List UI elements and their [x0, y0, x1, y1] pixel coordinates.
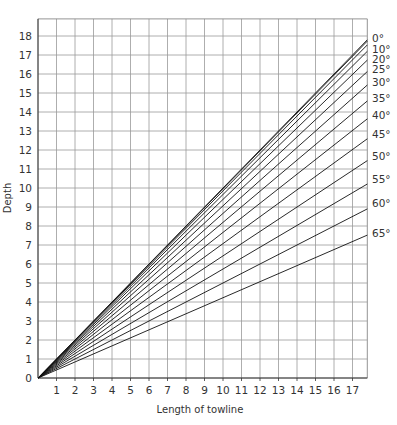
y-tick-label: 18	[19, 30, 32, 42]
angle-label: 65°	[372, 227, 391, 239]
angle-line-minor	[38, 41, 367, 378]
y-tick-label: 7	[25, 239, 32, 251]
y-tick-label: 9	[25, 201, 32, 213]
y-tick-label: 0	[25, 372, 32, 384]
angle-line	[38, 119, 367, 378]
angle-lines	[38, 40, 367, 378]
x-tick-label: 4	[109, 384, 116, 396]
y-tick-label: 5	[25, 277, 32, 289]
angle-label: 25°	[372, 63, 391, 75]
angle-label: 45°	[372, 128, 391, 140]
angle-line	[38, 72, 367, 378]
y-tick-label: 11	[19, 163, 32, 175]
x-tick-label: 13	[272, 384, 285, 396]
angle-label: 60°	[372, 197, 391, 209]
x-tick-label: 9	[201, 384, 208, 396]
y-tick-label: 1	[25, 353, 32, 365]
angle-label: 55°	[372, 173, 391, 185]
x-tick-label: 5	[127, 384, 134, 396]
angle-line	[38, 139, 367, 378]
x-tick-label: 11	[235, 384, 248, 396]
x-tick-label: 14	[290, 384, 304, 396]
angle-line	[38, 209, 367, 378]
angle-line	[38, 184, 367, 378]
y-tick-label: 12	[19, 144, 32, 156]
angle-label: 35°	[372, 92, 391, 104]
y-tick-label: 14	[19, 106, 33, 118]
x-tick-label: 10	[216, 384, 229, 396]
y-tick-label: 2	[25, 334, 32, 346]
y-tick-label: 13	[19, 125, 32, 137]
y-tick-label: 10	[19, 182, 32, 194]
x-tick-label: 15	[309, 384, 322, 396]
x-tick-label: 16	[327, 384, 341, 396]
angle-line	[38, 85, 367, 378]
x-axis-label: Length of towline	[157, 404, 244, 415]
x-tick-label: 3	[90, 384, 97, 396]
angle-label: 30°	[372, 76, 391, 88]
x-tick-label: 12	[253, 384, 266, 396]
x-tick-label: 6	[146, 384, 153, 396]
angle-line	[38, 101, 367, 378]
angle-line	[38, 60, 367, 378]
y-axis-label: Depth	[2, 183, 13, 213]
angle-line	[38, 235, 367, 378]
x-axis-ticks: 1234567891011121314151617	[53, 384, 359, 396]
x-tick-label: 17	[346, 384, 359, 396]
y-tick-label: 17	[19, 49, 32, 61]
x-tick-label: 1	[53, 384, 60, 396]
y-tick-label: 3	[25, 315, 32, 327]
y-tick-label: 4	[25, 296, 32, 308]
y-axis-ticks: 0123456789101112131415161718	[19, 30, 33, 384]
y-tick-label: 16	[19, 68, 33, 80]
depth-vs-towline-chart: 1234567891011121314151617 01234567891011…	[0, 0, 397, 425]
angle-label: 40°	[372, 109, 391, 121]
angle-labels: 0°10°20°25°30°35°40°45°50°55°60°65°	[372, 32, 391, 239]
angle-line	[38, 161, 367, 378]
y-tick-label: 15	[19, 87, 32, 99]
angle-line-minor	[38, 51, 367, 378]
y-tick-label: 8	[25, 220, 32, 232]
x-tick-label: 8	[183, 384, 190, 396]
x-tick-label: 7	[164, 384, 171, 396]
y-tick-label: 6	[25, 258, 32, 270]
x-tick-label: 2	[72, 384, 79, 396]
angle-label: 50°	[372, 150, 391, 162]
